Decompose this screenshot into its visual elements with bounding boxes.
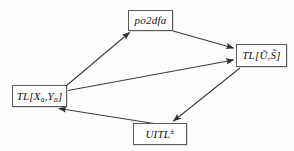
diagram-canvas: po2dfa TL[Ũ,S̃] TL[Xa,Ya] UITL± [0,0,294,151]
node-tl-x-y-close: ] [58,90,62,102]
edge-po2dfa-to-tl-us [173,31,234,48]
node-po2dfa-label: po2dfa [134,15,168,26]
node-tl-u-s-first: Ũ [259,49,267,61]
edge-tl-xy-to-po2dfa [66,33,130,87]
node-po2dfa[interactable]: po2dfa [128,10,173,31]
node-tl-x-y-label: TL[Xa,Ya] [16,91,64,102]
node-tl-x-y-first-sub: a [41,95,45,104]
node-tl-x-y-second: Y [48,90,54,102]
node-tl-x-y-second-sub: a [54,95,58,104]
edge-tl-xy-to-tl-us [68,60,234,91]
node-tl-u-s-close: ] [276,49,280,61]
node-tl-u-s[interactable]: TL[Ũ,S̃] [236,44,287,67]
node-tl-u-s-label: TL[Ũ,S̃] [241,50,281,61]
node-tl-x-y[interactable]: TL[Xa,Ya] [12,85,67,107]
node-uitl-superscript: ± [170,127,175,136]
edge-tl-us-to-uitl [174,68,241,121]
node-uitl-base: UITL [145,128,170,140]
node-uitl-label: UITL± [144,129,175,140]
node-tl-x-y-first: X [34,90,41,102]
node-tl-x-y-prefix: TL [17,90,30,102]
node-tl-u-s-prefix: TL [242,49,255,61]
node-uitl[interactable]: UITL± [133,123,187,145]
